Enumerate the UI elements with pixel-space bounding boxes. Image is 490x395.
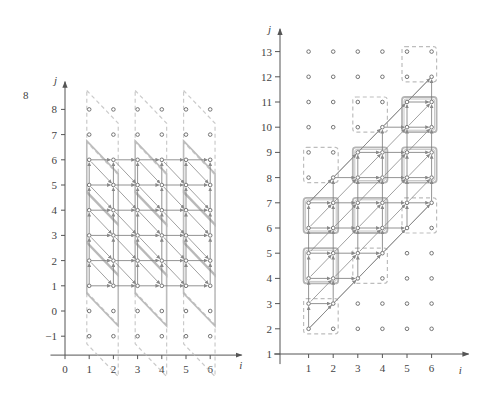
iteration-point <box>307 201 311 205</box>
iteration-point <box>381 327 385 331</box>
dependence-arrow <box>409 154 430 175</box>
iteration-point <box>112 158 116 162</box>
y-tick-label: 5 <box>267 247 273 259</box>
iteration-point <box>208 158 212 162</box>
left-iteration-space: ji−10123456780123456 <box>45 74 242 376</box>
x-tick-label: 2 <box>330 362 336 374</box>
iteration-point <box>208 284 212 288</box>
iteration-point <box>430 251 434 255</box>
iteration-point <box>381 302 385 306</box>
iteration-point <box>331 302 335 306</box>
iteration-point <box>405 226 409 230</box>
iteration-point <box>331 50 335 54</box>
dependence-arrow <box>360 154 381 175</box>
y-tick-label: 1 <box>52 280 58 292</box>
iteration-point <box>184 259 188 263</box>
iteration-point <box>112 309 116 313</box>
x-tick-label: 5 <box>183 363 189 375</box>
iteration-point <box>405 100 409 104</box>
iteration-point <box>136 183 140 187</box>
iteration-point <box>356 100 360 104</box>
boundary-line <box>309 203 432 329</box>
iteration-point <box>136 334 140 338</box>
y-tick-label: 12 <box>261 71 272 83</box>
iteration-point <box>430 151 434 155</box>
y-tick-label: 4 <box>52 204 58 216</box>
iteration-point <box>136 309 140 313</box>
iteration-point <box>405 251 409 255</box>
iteration-point <box>87 183 91 187</box>
iteration-point <box>184 234 188 238</box>
iteration-point <box>87 284 91 288</box>
iteration-point <box>430 100 434 104</box>
iteration-point <box>307 226 311 230</box>
dependence-arrow <box>140 187 160 208</box>
iteration-point <box>331 201 335 205</box>
x-tick-label: 5 <box>404 362 410 374</box>
iteration-point <box>331 125 335 129</box>
iteration-point <box>381 277 385 281</box>
iteration-point <box>381 100 385 104</box>
iteration-point <box>87 133 91 137</box>
iteration-point <box>184 334 188 338</box>
iteration-point <box>160 208 164 212</box>
iteration-point <box>87 309 91 313</box>
iteration-point <box>160 309 164 313</box>
y-tick-label: 1 <box>267 348 273 360</box>
iteration-point <box>405 151 409 155</box>
iteration-point <box>87 234 91 238</box>
y-tick-label: 6 <box>267 222 273 234</box>
iteration-point <box>430 201 434 205</box>
dependence-arrow <box>384 129 405 150</box>
iteration-point <box>184 309 188 313</box>
iteration-point <box>307 251 311 255</box>
iteration-point <box>160 259 164 263</box>
iteration-point <box>430 176 434 180</box>
iteration-point <box>356 176 360 180</box>
iteration-point <box>405 50 409 54</box>
x-tick-label: 3 <box>355 362 361 374</box>
iteration-point <box>381 226 385 230</box>
dependence-arrow <box>409 104 430 125</box>
dependence-arrow <box>311 205 332 226</box>
iteration-point <box>381 75 385 79</box>
iteration-point <box>208 133 212 137</box>
iteration-point <box>184 133 188 137</box>
iteration-point <box>430 302 434 306</box>
iteration-point <box>136 108 140 112</box>
iteration-point <box>331 226 335 230</box>
dependence-arrow <box>188 237 208 258</box>
iteration-point <box>112 334 116 338</box>
iteration-point <box>208 234 212 238</box>
iteration-point <box>307 75 311 79</box>
iteration-point <box>87 158 91 162</box>
iteration-point <box>307 327 311 331</box>
iteration-point <box>208 208 212 212</box>
iteration-point <box>356 125 360 129</box>
y-tick-label: 2 <box>267 323 273 335</box>
iteration-point <box>112 259 116 263</box>
y-tick-label: 0 <box>52 305 58 317</box>
y-tick-label: 13 <box>261 46 273 58</box>
y-tick-label: 8 <box>267 172 273 184</box>
iteration-point <box>184 284 188 288</box>
iteration-point <box>307 302 311 306</box>
iteration-point <box>331 277 335 281</box>
iteration-point <box>87 259 91 263</box>
dependence-arrow <box>91 237 111 258</box>
iteration-point <box>405 176 409 180</box>
dependence-arrow <box>360 205 381 226</box>
y-axis-label: j <box>52 74 57 86</box>
iteration-point <box>331 251 335 255</box>
iteration-point <box>331 75 335 79</box>
iteration-point <box>430 327 434 331</box>
dependence-arrow <box>188 187 208 208</box>
iteration-point <box>356 201 360 205</box>
iteration-point <box>160 158 164 162</box>
dependence-arrow <box>335 230 356 251</box>
iteration-point <box>87 334 91 338</box>
dependence-arrow <box>140 162 160 183</box>
iteration-point <box>136 234 140 238</box>
iteration-point <box>160 183 164 187</box>
iteration-point <box>331 151 335 155</box>
